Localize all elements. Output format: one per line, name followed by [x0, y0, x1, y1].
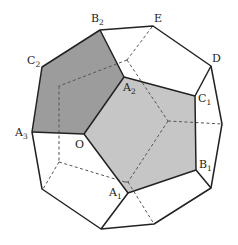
label-E: E [154, 12, 162, 25]
label-O: O [75, 138, 84, 151]
label-C1: C1 [198, 92, 211, 107]
label-A3: A3 [14, 126, 28, 141]
label-B2: B2 [91, 12, 104, 27]
label-D: D [212, 52, 221, 65]
label-C2: C2 [27, 54, 40, 69]
label-A1: A1 [108, 186, 122, 201]
label-B1: B1 [199, 158, 212, 173]
dodecahedron-diagram: B2 E D C2 A2 C1 A3 O B1 A1 [0, 0, 238, 245]
